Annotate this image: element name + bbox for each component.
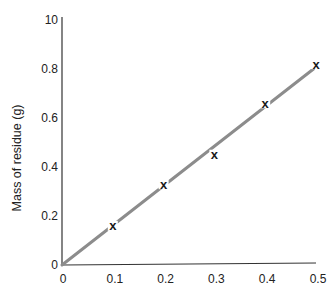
scatter-chart: xxxxx 00.10.20.30.40.5 00.20.40.60.810 M…: [0, 0, 336, 300]
data-point-x-marker: x: [262, 96, 270, 111]
data-point-x-marker: x: [312, 57, 320, 72]
x-axis-line: [62, 263, 316, 265]
best-fit-line: [62, 69, 313, 265]
y-tick-label: 0.8: [41, 62, 58, 76]
x-tick-label: 0.5: [310, 272, 327, 286]
y-tick-label: 0: [51, 258, 58, 272]
x-tick-label: 0.2: [157, 272, 174, 286]
x-tick-label: 0.3: [208, 272, 225, 286]
data-point-x-marker: x: [211, 147, 219, 162]
y-tick-label: 0.2: [41, 209, 58, 223]
data-point-x-marker: x: [109, 218, 117, 233]
x-tick-label: 0: [60, 272, 67, 286]
x-tick-label: 0.1: [106, 272, 123, 286]
y-tick-label: 10: [45, 13, 59, 27]
data-point-x-marker: x: [160, 177, 168, 192]
y-axis-tick-labels: 00.20.40.60.810: [41, 13, 58, 272]
y-axis-title: Mass of residue (g): [10, 105, 24, 212]
fit-line: [62, 69, 313, 265]
y-tick-label: 0.6: [41, 111, 58, 125]
x-tick-label: 0.4: [259, 272, 276, 286]
x-axis-tick-labels: 00.10.20.30.40.5: [60, 272, 327, 286]
y-tick-label: 0.4: [41, 160, 58, 174]
axes: [62, 17, 316, 265]
